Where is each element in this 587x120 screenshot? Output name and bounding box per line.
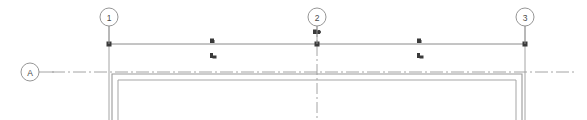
lock-glyph-icon[interactable] — [213, 56, 217, 59]
grid-bubble-3[interactable]: 3 — [516, 8, 534, 44]
constraint-glyph-icon[interactable] — [313, 30, 317, 35]
cad-drawing-canvas[interactable]: 1 2 3 A — [0, 0, 587, 120]
constraint-glyph-icon[interactable] — [420, 40, 422, 43]
annotation-marker-left[interactable] — [210, 39, 217, 59]
grid-bubble-A[interactable]: A — [21, 63, 54, 81]
grid-bubble-2[interactable]: 2 — [308, 8, 326, 44]
grid-bubble-A-label: A — [27, 68, 33, 78]
grid-bubble-2-label: 2 — [315, 13, 320, 23]
lock-glyph-icon[interactable] — [420, 56, 424, 59]
grid-bubble-1[interactable]: 1 — [100, 8, 118, 44]
grid-bubble-3-label: 3 — [523, 13, 528, 23]
annotation-marker-right[interactable] — [417, 39, 424, 59]
constraint-glyph-icon[interactable] — [213, 40, 215, 43]
floor-plan-drawing[interactable]: 1 2 3 A — [0, 0, 587, 120]
grid-bubble-1-label: 1 — [107, 13, 112, 23]
